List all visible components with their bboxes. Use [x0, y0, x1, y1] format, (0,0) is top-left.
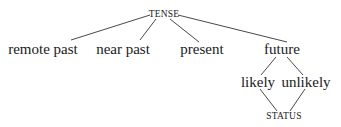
edge-future-likely	[261, 57, 276, 75]
node-future: future	[264, 42, 300, 57]
node-status: STATUS	[266, 112, 301, 122]
edge-tense-present	[170, 19, 199, 42]
node-near-past: near past	[96, 42, 150, 57]
tense-tree-diagram: TENSE remote past near past present futu…	[0, 0, 341, 127]
edge-tense-remote-past	[71, 15, 150, 40]
node-remote-past: remote past	[8, 42, 78, 57]
node-present: present	[180, 42, 223, 57]
edge-unlikely-status	[290, 89, 305, 111]
node-unlikely: unlikely	[281, 75, 330, 90]
edge-future-unlikely	[287, 57, 303, 75]
edge-likely-status	[260, 89, 277, 111]
edge-tense-near-past	[140, 19, 156, 40]
node-likely: likely	[241, 75, 275, 90]
node-tense: TENSE	[149, 10, 180, 20]
